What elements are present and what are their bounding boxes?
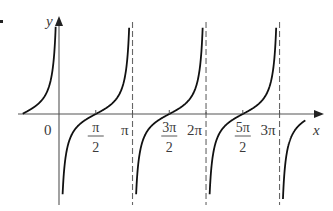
curve-branches bbox=[23, 27, 306, 199]
tick-label-denominator: 2 bbox=[166, 140, 173, 155]
x-tick-labels: π2π3π22π5π23π bbox=[88, 120, 276, 155]
x-tick-marks bbox=[96, 110, 280, 114]
tick-label-numerator: π bbox=[92, 120, 99, 135]
tick-label: π bbox=[121, 122, 129, 138]
tick-label: 3π bbox=[260, 122, 276, 138]
x-axis-label: x bbox=[312, 122, 320, 138]
y-axis-label: y bbox=[44, 13, 53, 29]
tick-label-denominator: 2 bbox=[92, 140, 99, 155]
tick-label-numerator: 3π bbox=[162, 120, 176, 135]
origin-label: 0 bbox=[44, 122, 52, 138]
tick-label: 2π bbox=[187, 122, 203, 138]
x-axis-arrow-icon bbox=[314, 110, 324, 118]
marker-dot bbox=[0, 20, 3, 23]
curve-branch bbox=[23, 27, 56, 114]
curve-branch bbox=[283, 120, 305, 199]
tick-label-denominator: 2 bbox=[239, 140, 246, 155]
y-axis-arrow-icon bbox=[55, 16, 63, 26]
tick-label-numerator: 5π bbox=[236, 120, 250, 135]
cotangent-graph: π2π3π22π5π23π y x 0 bbox=[0, 0, 333, 211]
